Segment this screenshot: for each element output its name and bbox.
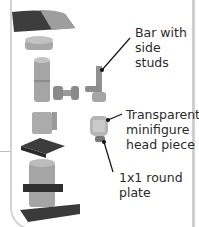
label-line: Bar with [135,25,187,40]
label-line: plate [119,185,183,200]
label-line: studs [135,55,187,70]
label-bar-with-side-studs: Bar with side studs [135,25,187,70]
label-line: Transparent [126,107,199,122]
round-brick-stack [34,57,50,102]
label-line: head piece [126,137,199,152]
label-line: 1x1 round [119,170,183,185]
label-round-plate: 1x1 round plate [119,170,183,200]
transparent-head-piece [90,116,108,142]
base-assembly [20,159,80,222]
brick-with-clip [32,112,57,134]
curved-slope-piece [12,10,75,32]
label-line: side [135,40,187,55]
label-transparent-head: Transparent minifigure head piece [126,107,199,152]
round-plate-2x2 [25,36,53,50]
label-line: minifigure [126,122,199,137]
dark-plate-2x2 [21,138,65,158]
horizontal-bar-piece [53,86,79,100]
